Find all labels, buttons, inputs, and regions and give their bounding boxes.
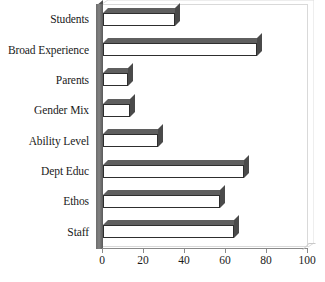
bar-front-face [103,104,130,117]
category-label: Ability Level [0,126,93,156]
bar-side-face [158,124,163,147]
bar-row [103,186,308,216]
bar-front-face [103,134,158,147]
category-axis-wall [96,4,103,249]
bar-row [103,34,308,64]
bar-row [103,217,308,247]
category-axis-labels: Students Broad Experience Parents Gender… [0,4,93,247]
category-label: Broad Experience [0,34,93,64]
bar [103,165,244,178]
category-label: Parents [0,65,93,95]
bar [103,13,175,26]
bar-row [103,95,308,125]
bar-front-face [103,225,234,238]
value-axis-tick-label: 0 [99,254,105,266]
value-axis-tick-label: 20 [137,254,149,266]
category-label: Students [0,4,93,34]
bar [103,73,128,86]
value-axis-tick-labels: 020406080100 [0,254,325,274]
bar [103,104,130,117]
value-axis-tick [225,249,226,253]
bar [103,195,220,208]
bar-front-face [103,73,128,86]
value-axis-tick-label: 80 [260,254,272,266]
bars-container [103,4,308,247]
value-axis-tick-label: 40 [178,254,190,266]
value-axis-tick-label: 60 [219,254,231,266]
bar-row [103,156,308,186]
bar [103,43,257,56]
bar-chart: Students Broad Experience Parents Gender… [0,0,325,282]
bar-side-face [220,185,225,208]
value-axis-tick [143,249,144,253]
bar-front-face [103,43,257,56]
bar-side-face [128,63,133,86]
value-axis-tick [184,249,185,253]
bar-row [103,126,308,156]
value-axis-tick [102,249,103,253]
category-label: Gender Mix [0,95,93,125]
category-label: Staff [0,217,93,247]
bar-side-face [244,155,249,178]
category-label: Ethos [0,186,93,216]
bar-side-face [175,3,180,26]
bar [103,134,158,147]
category-label: Dept Educ [0,156,93,186]
bar [103,225,234,238]
bar-side-face [234,215,239,238]
value-axis-tick-label: 100 [298,254,315,266]
bar-side-face [257,33,262,56]
bar-row [103,65,308,95]
bar-front-face [103,13,175,26]
bar-front-face [103,195,220,208]
value-axis-tick [307,249,308,253]
value-axis-tick [266,249,267,253]
bar-front-face [103,165,244,178]
bar-side-face [130,94,135,117]
bar-row [103,4,308,34]
